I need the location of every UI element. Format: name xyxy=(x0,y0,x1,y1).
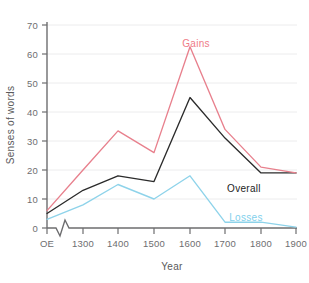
y-tick-label-10: 10 xyxy=(27,194,38,205)
series-label-gains: Gains xyxy=(182,38,210,49)
y-tick-label-0: 0 xyxy=(33,223,38,234)
y-tick-label-60: 60 xyxy=(27,49,38,60)
x-tick-label-1400: 1400 xyxy=(107,238,129,249)
x-tick-label-1500: 1500 xyxy=(143,238,165,249)
x-tick-label-1900: 1900 xyxy=(285,238,307,249)
series-line-overall xyxy=(47,98,296,214)
x-tick-label-1300: 1300 xyxy=(72,238,94,249)
y-tick-label-40: 40 xyxy=(27,107,38,118)
x-tick-marks xyxy=(47,228,296,234)
chart-canvas: 70 60 50 40 30 20 10 0 Senses of words O… xyxy=(0,0,309,283)
x-tick-label-1600: 1600 xyxy=(179,238,201,249)
line-chart: 70 60 50 40 30 20 10 0 Senses of words O… xyxy=(0,0,309,283)
x-tick-label-oe: OE xyxy=(40,238,54,249)
x-tick-label-1800: 1800 xyxy=(250,238,272,249)
y-axis-title: Senses of words xyxy=(5,86,16,164)
y-tick-label-30: 30 xyxy=(27,136,38,147)
y-tick-label-70: 70 xyxy=(27,20,38,31)
y-tick-label-20: 20 xyxy=(27,165,38,176)
series-label-losses: Losses xyxy=(229,212,263,223)
y-tick-marks xyxy=(42,25,47,228)
x-axis-title: Year xyxy=(161,261,183,272)
series-label-overall: Overall xyxy=(227,183,261,194)
gridlines xyxy=(47,25,297,199)
x-tick-label-1700: 1700 xyxy=(214,238,236,249)
y-tick-label-50: 50 xyxy=(27,78,38,89)
